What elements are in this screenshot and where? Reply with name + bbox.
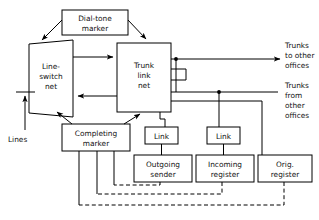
link-left-label: Link [154, 132, 170, 141]
node-orig-register[interactable]: Orig. register [258, 155, 312, 182]
edge-dialtone-to-trunklink [128, 20, 146, 39]
trunks-from-label-line4: offices [285, 111, 309, 120]
line-switch-net-label-line3: net [45, 82, 57, 91]
line-switch-net-label-line1: Line- [42, 62, 60, 71]
trunks-from-label-line3: other [285, 101, 306, 110]
edge-completing-to-trunklink [124, 114, 140, 124]
trunks-from-label-line2: from [285, 91, 302, 100]
trunk-link-net-label-line2: link [137, 71, 151, 80]
completing-marker-label-line1: Completing [75, 129, 118, 138]
node-link-left[interactable]: Link [145, 127, 178, 144]
orig-register-label-line2: register [271, 170, 300, 179]
trunk-link-net-label-line1: Trunk [133, 61, 155, 70]
edge-trunk-loopback [171, 69, 186, 80]
annotation-trunks-from-other-offices: Trunks from other offices [284, 81, 309, 120]
orig-register-label-line1: Orig. [276, 160, 294, 169]
node-dial-tone-marker[interactable]: Dial-tone marker [62, 10, 128, 35]
outgoing-sender-label-line1: Outgoing [146, 160, 180, 169]
dial-tone-marker-label-line1: Dial-tone [78, 14, 112, 23]
switching-system-diagram: Dial-tone marker Line- switch net Trunk … [0, 0, 319, 220]
node-completing-marker[interactable]: Completing marker [62, 124, 130, 151]
incoming-register-label-line1: Incoming [208, 160, 242, 169]
trunks-to-label-line2: to other [285, 51, 315, 60]
trunks-to-label-line1: Trunks [284, 41, 309, 50]
line-switch-net-label-line2: switch [39, 72, 63, 81]
outgoing-sender-label-line2: sender [150, 170, 176, 179]
incoming-register-label-line2: register [211, 170, 240, 179]
dial-tone-marker-label-line2: marker [82, 24, 109, 33]
edge-trunklink-to-link-left [160, 112, 165, 127]
link-right-label: Link [216, 132, 232, 141]
completing-marker-label-line2: marker [83, 139, 110, 148]
trunks-from-label-line1: Trunks [284, 81, 309, 90]
node-link-right[interactable]: Link [207, 127, 240, 144]
annotation-trunks-to-other-offices: Trunks to other offices [284, 41, 315, 70]
node-trunk-link-net[interactable]: Trunk link net [117, 43, 171, 112]
node-line-switch-net[interactable]: Line- switch net [29, 40, 73, 117]
trunk-link-net-label-line3: net [138, 81, 150, 90]
node-outgoing-sender[interactable]: Outgoing sender [134, 155, 192, 182]
diagram-canvas: Dial-tone marker Line- switch net Trunk … [0, 0, 319, 220]
edge-dialtone-to-lineswitch [42, 20, 62, 40]
return-path-orig-register [79, 182, 284, 205]
trunks-to-label-line3: offices [285, 61, 309, 70]
lines-label: Lines [8, 135, 27, 144]
node-incoming-register[interactable]: Incoming register [196, 155, 254, 182]
